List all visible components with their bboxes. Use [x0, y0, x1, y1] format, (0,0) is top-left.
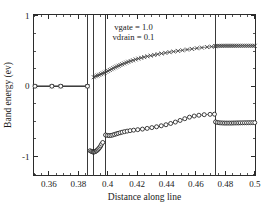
- data-marker: [197, 113, 201, 117]
- data-marker: [192, 114, 196, 118]
- data-marker: [150, 126, 154, 130]
- data-marker: [136, 128, 140, 132]
- data-marker: [173, 120, 177, 124]
- x-tick-label: 0.44: [159, 179, 175, 189]
- plot-annotation: vdrain = 0.1: [113, 32, 155, 42]
- y-axis-title: Band energy (ev): [3, 62, 14, 128]
- data-marker: [253, 121, 257, 125]
- data-marker: [164, 123, 168, 127]
- band-diagram-plot: 0.360.380.40.420.440.460.480.510-1vgate …: [0, 0, 270, 221]
- x-tick-label: 0.46: [188, 179, 204, 189]
- data-marker: [101, 140, 105, 144]
- y-tick-label: 0: [25, 81, 30, 91]
- data-marker: [145, 126, 149, 130]
- data-marker: [140, 127, 144, 131]
- data-marker: [132, 128, 136, 132]
- data-marker: [183, 117, 187, 121]
- data-marker: [187, 115, 191, 119]
- x-tick-label: 0.38: [70, 179, 86, 189]
- data-marker: [178, 118, 182, 122]
- x-tick-label: 0.5: [249, 179, 261, 189]
- data-marker: [50, 84, 54, 88]
- series-line-conduction-band-channel: [94, 46, 216, 77]
- data-marker: [212, 112, 216, 116]
- data-marker: [208, 112, 212, 116]
- data-marker: [202, 113, 206, 117]
- data-marker: [33, 84, 37, 88]
- x-tick-label: 0.4: [102, 179, 114, 189]
- x-tick-label: 0.42: [129, 179, 145, 189]
- data-marker: [169, 121, 173, 125]
- x-axis-title: Distance along line: [108, 192, 181, 202]
- x-tick-label: 0.48: [217, 179, 233, 189]
- chart-figure: 0.360.380.40.420.440.460.480.510-1vgate …: [0, 0, 270, 221]
- plot-annotation: vgate = 1.0: [114, 22, 153, 32]
- y-tick-label: -1: [22, 152, 30, 162]
- data-marker: [159, 124, 163, 128]
- data-marker: [85, 84, 89, 88]
- data-marker: [59, 84, 63, 88]
- y-tick-label: 1: [25, 11, 30, 21]
- data-marker: [155, 125, 159, 129]
- x-tick-label: 0.36: [41, 179, 57, 189]
